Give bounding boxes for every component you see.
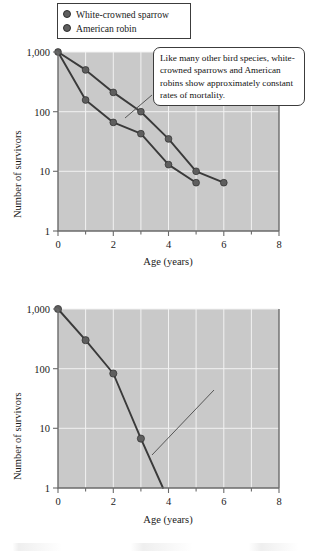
chart-panel-snake: Number of survivors: [0, 280, 311, 551]
y-tick-label-1000-2: 1,000: [26, 304, 50, 315]
legend-label-sparrow: White-crowned sparrow: [76, 9, 169, 20]
legend-marker-icon: [63, 10, 71, 18]
y-tick-label-1000: 1,000: [26, 47, 50, 58]
x-tick-label-6-2: 6: [221, 496, 226, 507]
x-tick-label-8: 8: [276, 239, 281, 250]
x-axis-title: Age (years): [143, 256, 193, 268]
x-tick-label-4-2: 4: [166, 496, 172, 507]
legend-item-robin: American robin: [63, 21, 185, 35]
page-footer-artifact: [0, 543, 311, 551]
survivorship-curves-figure: White-crowned sparrow American robin Num…: [0, 0, 311, 551]
y-tick-label-1: 1: [45, 226, 50, 237]
x-axis-title-2: Age (years): [143, 514, 193, 526]
chart-panel-birds: White-crowned sparrow American robin Num…: [0, 0, 311, 280]
x-tick-label-0: 0: [55, 239, 60, 250]
x-tick-label-2-2: 2: [111, 496, 116, 507]
y-tick-label-10: 10: [40, 166, 51, 177]
callout-sparrow: Like many other bird species, white-crow…: [153, 47, 305, 106]
x-tick-label-4: 4: [166, 239, 172, 250]
x-axis-ticks-2: [58, 488, 279, 493]
x-axis-ticks: [58, 231, 279, 236]
y-tick-label-100: 100: [34, 107, 50, 118]
legend-item-sparrow: White-crowned sparrow: [63, 7, 185, 21]
legend: White-crowned sparrow American robin: [57, 3, 191, 39]
x-tick-label-2: 2: [111, 239, 116, 250]
x-tick-label-8-2: 8: [276, 496, 281, 507]
y-tick-label-10-2: 10: [40, 423, 51, 434]
y-axis-ticks-2: [53, 309, 58, 488]
x-tick-label-0-2: 0: [55, 496, 60, 507]
chart-svg-snake-content: 1,000 100 10 1 0 2 4 6 8 Age (years): [0, 280, 311, 551]
y-axis-title: Number of survivors: [12, 131, 23, 219]
y-axis-ticks: [53, 52, 58, 231]
y-tick-label-100-2: 100: [34, 364, 50, 375]
legend-label-robin: American robin: [76, 23, 136, 34]
legend-marker-icon: [63, 24, 71, 32]
y-tick-label-1-2: 1: [45, 483, 50, 494]
x-tick-label-6: 6: [221, 239, 226, 250]
chart-svg-birds: 1,000 100 10 1 0 2 4 6 8 Age (years): [0, 0, 311, 280]
